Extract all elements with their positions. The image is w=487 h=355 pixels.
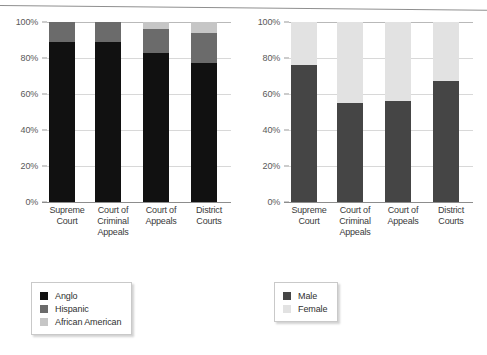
x-label-line2: Criminal: [90, 216, 136, 227]
x-label-supreme-court: Supreme Court: [286, 205, 332, 227]
bar-segment-female: [385, 22, 411, 101]
stacked-bar: [49, 22, 75, 202]
y-tick-label-60: 60%: [21, 89, 38, 99]
x-label-line2: Criminal: [332, 216, 378, 227]
x-label-supreme-court: Supreme Court: [44, 205, 90, 227]
x-label-line3: Appeals: [90, 227, 136, 238]
x-label-district-courts: District Courts: [428, 205, 474, 227]
x-label-line3: Appeals: [332, 227, 378, 238]
y-tick-label-0: 0%: [25, 197, 38, 207]
y-tick-label-20: 20%: [21, 161, 38, 171]
x-label-court-of-appeals: Court of Appeals: [380, 205, 426, 227]
legend-gender: Male Female: [274, 282, 338, 322]
y-tick-label-100: 100%: [258, 17, 280, 27]
y-tick-label-100: 100%: [16, 17, 38, 27]
legend-swatch-anglo: [40, 292, 48, 300]
scan-artifact-line: [0, 5, 487, 11]
x-axis-line-ethnicity: [42, 202, 231, 203]
stacked-bar: [433, 22, 459, 202]
plot-area-ethnicity: 100% 80% 60% 40% 20% 0% Supreme Court: [6, 22, 234, 222]
x-label-line2: Courts: [186, 216, 232, 227]
stacked-bar: [143, 22, 169, 202]
bar-segment-hispanic: [49, 22, 75, 42]
y-tick-label-20: 20%: [263, 161, 280, 171]
bar-segment-anglo: [95, 42, 121, 202]
bar-segment-male: [433, 81, 459, 202]
y-axis-gender: 100% 80% 60% 40% 20% 0%: [248, 22, 284, 222]
x-label-court-of-criminal-appeals: Court of Criminal Appeals: [332, 205, 378, 238]
x-axis-line-gender: [284, 202, 473, 203]
x-axis-labels-ethnicity: Supreme Court Court of Criminal Appeals …: [47, 205, 231, 239]
legend-label-african-american: African American: [55, 317, 121, 327]
x-label-line1: Supreme: [286, 205, 332, 216]
bar-segment-african-american: [143, 22, 169, 29]
y-tick-label-0: 0%: [267, 197, 280, 207]
y-tick-label-80: 80%: [21, 53, 38, 63]
x-label-line1: District: [428, 205, 474, 216]
x-label-line1: Court of: [380, 205, 426, 216]
legend-swatch-african-american: [40, 318, 48, 326]
bar-segment-hispanic: [191, 33, 217, 64]
bar-segment-anglo: [49, 42, 75, 202]
y-tick-label-80: 80%: [263, 53, 280, 63]
x-label-line2: Appeals: [380, 216, 426, 227]
y-tick-label-60: 60%: [263, 89, 280, 99]
stacked-bar: [191, 22, 217, 202]
bar-segment-female: [337, 22, 363, 103]
bar-segment-anglo: [143, 53, 169, 202]
y-tick-label-40: 40%: [263, 125, 280, 135]
legend-label-hispanic: Hispanic: [55, 304, 89, 314]
legend-swatch-hispanic: [40, 305, 48, 313]
x-label-line1: Court of: [90, 205, 136, 216]
y-tick-label-40: 40%: [21, 125, 38, 135]
x-label-line2: Appeals: [138, 216, 184, 227]
legend-swatch-male: [283, 292, 291, 300]
bar-segment-hispanic: [95, 22, 121, 42]
bar-segment-hispanic: [143, 29, 169, 52]
chart-panel-gender: 100% 80% 60% 40% 20% 0% Supreme Court: [248, 22, 476, 222]
bar-segment-african-american: [191, 22, 217, 33]
stacked-bar: [291, 22, 317, 202]
legend-item-female[interactable]: Female: [283, 302, 327, 315]
legend-label-male: Male: [298, 291, 317, 301]
bar-segment-anglo: [191, 63, 217, 202]
x-label-line2: Court: [44, 216, 90, 227]
x-label-district-courts: District Courts: [186, 205, 232, 227]
legend-label-female: Female: [298, 304, 327, 314]
bar-segment-female: [433, 22, 459, 81]
legend-item-african-american[interactable]: African American: [40, 315, 121, 328]
legend-item-anglo[interactable]: Anglo: [40, 289, 121, 302]
x-label-line1: Supreme: [44, 205, 90, 216]
x-label-line1: Court of: [332, 205, 378, 216]
stacked-bar: [337, 22, 363, 202]
bar-segment-male: [291, 65, 317, 202]
legend-ethnicity: Anglo Hispanic African American: [31, 282, 132, 335]
bars-canvas-ethnicity: [47, 22, 231, 202]
x-axis-labels-gender: Supreme Court Court of Criminal Appeals …: [289, 205, 473, 239]
bar-segment-male: [385, 101, 411, 202]
legend-item-male[interactable]: Male: [283, 289, 327, 302]
legend-item-hispanic[interactable]: Hispanic: [40, 302, 121, 315]
legend-swatch-female: [283, 305, 291, 313]
x-label-line2: Courts: [428, 216, 474, 227]
x-label-court-of-appeals: Court of Appeals: [138, 205, 184, 227]
y-axis-ethnicity: 100% 80% 60% 40% 20% 0%: [6, 22, 42, 222]
x-label-court-of-criminal-appeals: Court of Criminal Appeals: [90, 205, 136, 238]
x-label-line1: District: [186, 205, 232, 216]
plot-area-gender: 100% 80% 60% 40% 20% 0% Supreme Court: [248, 22, 476, 222]
bar-segment-male: [337, 103, 363, 202]
x-label-line1: Court of: [138, 205, 184, 216]
stacked-bar: [385, 22, 411, 202]
bars-canvas-gender: [289, 22, 473, 202]
bar-segment-female: [291, 22, 317, 65]
legend-label-anglo: Anglo: [55, 291, 78, 301]
stacked-bar: [95, 22, 121, 202]
chart-panel-ethnicity: 100% 80% 60% 40% 20% 0% Supreme Court: [6, 22, 234, 222]
x-label-line2: Court: [286, 216, 332, 227]
